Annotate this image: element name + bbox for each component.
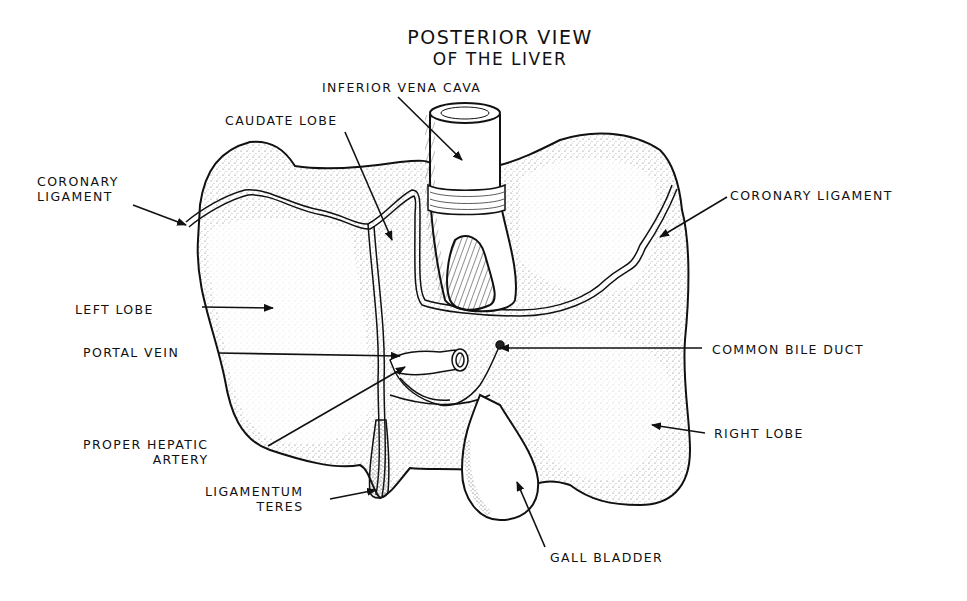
- label-coronary-ligament-left: CORONARYLIGAMENT: [37, 174, 119, 204]
- label-line: LIGAMENT: [37, 189, 119, 204]
- label-line: PROPER HEPATIC: [83, 437, 208, 452]
- label-line: CORONARY LIGAMENT: [730, 188, 893, 203]
- label-left-lobe: LEFT LOBE: [75, 302, 154, 317]
- label-gall-bladder: GALL BLADDER: [550, 550, 663, 565]
- liver-illustration: [0, 0, 967, 601]
- label-right-lobe: RIGHT LOBE: [714, 426, 804, 441]
- label-portal-vein: PORTAL VEIN: [83, 345, 179, 360]
- label-line: TERES: [205, 499, 304, 514]
- label-line: LEFT LOBE: [75, 302, 154, 317]
- label-line: PORTAL VEIN: [83, 345, 179, 360]
- title-line-1: POSTERIOR VIEW: [355, 26, 645, 48]
- arrow-ligamentum-teres: [330, 490, 376, 499]
- label-common-bile-duct: COMMON BILE DUCT: [712, 342, 864, 357]
- label-line: COMMON BILE DUCT: [712, 342, 864, 357]
- label-line: ARTERY: [83, 452, 208, 467]
- arrow-coronary-ligament-left: [133, 205, 186, 225]
- arrow-left-lobe: [202, 307, 273, 308]
- label-ligamentum-teres: LIGAMENTUMTERES: [205, 484, 304, 514]
- title-line-2: OF THE LIVER: [355, 48, 645, 70]
- label-line: GALL BLADDER: [550, 550, 663, 565]
- label-caudate-lobe: CAUDATE LOBE: [225, 113, 338, 128]
- label-line: RIGHT LOBE: [714, 426, 804, 441]
- label-coronary-ligament-right: CORONARY LIGAMENT: [730, 188, 893, 203]
- inferior-vena-cava-shape: [428, 103, 516, 311]
- label-line: CAUDATE LOBE: [225, 113, 338, 128]
- label-inferior-vena-cava: INFERIOR VENA CAVA: [322, 80, 481, 95]
- label-line: CORONARY: [37, 174, 119, 189]
- diagram-title: POSTERIOR VIEW OF THE LIVER: [355, 26, 645, 70]
- label-proper-hepatic-artery: PROPER HEPATICARTERY: [83, 437, 208, 467]
- label-line: INFERIOR VENA CAVA: [322, 80, 481, 95]
- label-line: LIGAMENTUM: [205, 484, 304, 499]
